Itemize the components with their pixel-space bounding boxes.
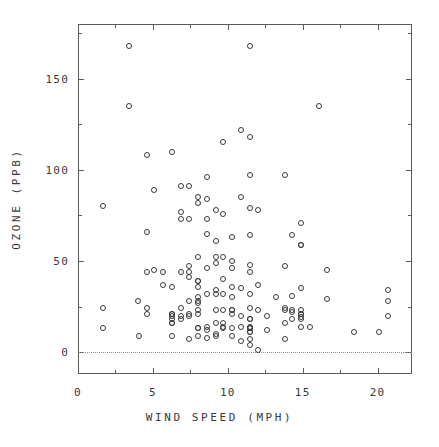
data-point <box>289 316 295 322</box>
axis-tick <box>340 370 341 374</box>
axis-tick <box>78 124 82 125</box>
axis-tick <box>78 170 84 171</box>
data-point <box>247 262 253 268</box>
axis-tick <box>115 24 116 28</box>
axis-tick <box>406 261 412 262</box>
axis-tick <box>408 215 412 216</box>
data-point <box>220 211 226 217</box>
data-point <box>247 316 253 322</box>
chart-page: WIND SPEED (MPH) OZONE (PPB) 05101520050… <box>0 0 439 447</box>
x-tick-label: 10 <box>220 386 236 399</box>
data-point <box>247 269 253 275</box>
data-point <box>100 305 106 311</box>
data-point <box>298 220 304 226</box>
data-point <box>186 311 192 317</box>
data-point <box>178 269 184 275</box>
data-point <box>178 216 184 222</box>
data-point <box>213 238 219 244</box>
data-point <box>385 298 391 304</box>
axis-tick <box>228 368 229 374</box>
data-point <box>186 336 192 342</box>
data-point <box>186 269 192 275</box>
data-point <box>247 336 253 342</box>
data-point <box>220 139 226 145</box>
axis-tick <box>265 24 266 28</box>
data-point <box>264 313 270 319</box>
data-point <box>213 320 219 326</box>
data-point <box>298 242 304 248</box>
axis-tick <box>408 33 412 34</box>
data-point <box>144 269 150 275</box>
axis-tick <box>115 370 116 374</box>
data-point <box>135 298 141 304</box>
data-point <box>247 342 253 348</box>
data-point <box>255 282 261 288</box>
data-point <box>238 313 244 319</box>
data-point <box>169 320 175 326</box>
axis-tick <box>190 24 191 28</box>
data-point <box>195 298 201 304</box>
zero-reference-line <box>78 352 412 353</box>
data-point <box>273 294 279 300</box>
data-point <box>229 258 235 264</box>
data-point <box>178 305 184 311</box>
data-point <box>204 174 210 180</box>
axis-tick <box>303 24 304 30</box>
axis-tick <box>78 215 82 216</box>
data-point <box>195 194 201 200</box>
data-point <box>144 305 150 311</box>
data-point <box>220 276 226 282</box>
data-point <box>351 329 357 335</box>
x-tick-label: 0 <box>74 386 82 399</box>
data-point <box>376 329 382 335</box>
data-point <box>195 325 201 331</box>
data-point <box>186 183 192 189</box>
data-point <box>238 285 244 291</box>
data-point <box>100 203 106 209</box>
data-point <box>144 311 150 317</box>
axis-tick <box>265 370 266 374</box>
data-point <box>238 338 244 344</box>
y-axis-title: OZONE (PPB) <box>10 148 23 249</box>
y-tick-label: 50 <box>53 254 69 267</box>
data-point <box>220 325 226 331</box>
data-point <box>307 324 313 330</box>
data-point <box>204 265 210 271</box>
axis-tick <box>78 24 79 30</box>
data-point <box>220 307 226 313</box>
axis-tick <box>303 368 304 374</box>
data-point <box>204 291 210 297</box>
data-point <box>144 229 150 235</box>
axis-tick <box>408 124 412 125</box>
axis-tick <box>228 24 229 30</box>
data-point <box>136 333 142 339</box>
axis-tick <box>408 307 412 308</box>
data-point <box>126 43 132 49</box>
data-point <box>282 336 288 342</box>
data-point <box>324 296 330 302</box>
axis-tick <box>378 368 379 374</box>
data-point <box>316 103 322 109</box>
x-tick-label: 15 <box>295 386 311 399</box>
data-point <box>204 327 210 333</box>
data-point <box>298 316 304 322</box>
data-point <box>385 287 391 293</box>
axis-tick <box>153 24 154 30</box>
data-point <box>186 298 192 304</box>
data-point <box>229 265 235 271</box>
data-point <box>195 254 201 260</box>
data-point <box>213 207 219 213</box>
data-point <box>238 127 244 133</box>
data-point <box>289 293 295 299</box>
data-point <box>213 291 219 297</box>
axis-tick <box>78 307 82 308</box>
data-point <box>247 205 253 211</box>
axis-tick <box>340 24 341 28</box>
data-point <box>255 207 261 213</box>
data-point <box>264 327 270 333</box>
data-point <box>247 43 253 49</box>
data-point <box>324 267 330 273</box>
data-point <box>204 335 210 341</box>
data-point <box>220 254 226 260</box>
axis-tick <box>153 368 154 374</box>
